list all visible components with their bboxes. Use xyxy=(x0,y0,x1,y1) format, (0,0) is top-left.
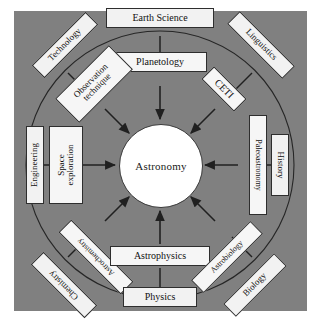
diagram-canvas: Astronomy Earth Science Planetology Tech… xyxy=(0,0,320,323)
arrow-northeast xyxy=(191,109,215,133)
node-planetology-label: Planetology xyxy=(136,57,184,67)
node-engineering[interactable]: Engineering xyxy=(26,126,44,204)
node-physics[interactable]: Physics xyxy=(123,287,197,307)
node-earth-science[interactable]: Earth Science xyxy=(106,8,214,28)
node-astrophysics[interactable]: Astrophysics xyxy=(110,246,210,266)
node-paleoastronomy-label: Paleoastronomy xyxy=(254,139,262,191)
node-physics-label: Physics xyxy=(145,292,176,302)
arrow-northwest xyxy=(105,109,129,133)
arrow-southwest xyxy=(105,197,129,221)
node-paleoastronomy[interactable]: Paleoastronomy xyxy=(249,115,267,215)
center-node-astronomy[interactable]: Astronomy xyxy=(119,124,203,208)
node-space-exploration[interactable]: Space exploration xyxy=(49,126,83,204)
node-engineering-label: Engineering xyxy=(30,143,39,187)
node-space-exploration-label: Space exploration xyxy=(57,145,76,186)
node-astrophysics-label: Astrophysics xyxy=(134,251,186,261)
arrow-southeast xyxy=(191,197,215,221)
node-history-label: History xyxy=(275,152,284,179)
node-history[interactable]: History xyxy=(271,134,289,196)
center-node-label: Astronomy xyxy=(135,160,186,172)
node-earth-science-label: Earth Science xyxy=(132,13,187,23)
